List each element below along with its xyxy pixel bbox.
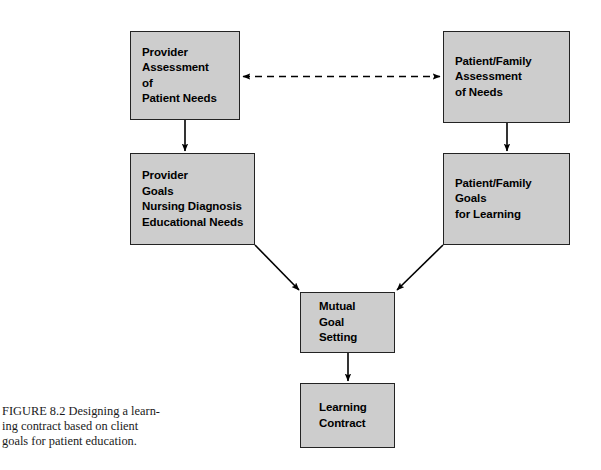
node-provider-assessment: Provider Assessment of Patient Needs — [130, 31, 240, 120]
figure-canvas: Provider Assessment of Patient Needs Pat… — [0, 0, 601, 470]
node-patient-assessment: Patient/Family Assessment of Needs — [443, 31, 570, 123]
node-patient-goals: Patient/Family Goals for Learning — [443, 153, 570, 245]
node-provider-goals: Provider Goals Nursing Diagnosis Educati… — [130, 153, 255, 245]
figure-caption: FIGURE 8.2 Designing a learn- ing contra… — [2, 404, 170, 450]
edge-patient-to-mutual — [397, 245, 443, 290]
node-mutual-goal-setting: Mutual Goal Setting — [300, 292, 395, 353]
edge-provider-to-mutual — [255, 245, 299, 290]
node-learning-contract: Learning Contract — [300, 383, 395, 448]
